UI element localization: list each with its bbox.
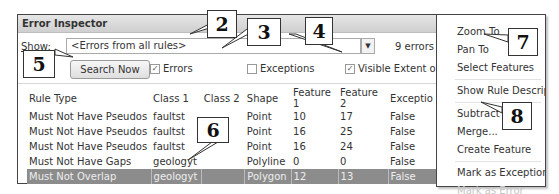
column-header-class2[interactable]: Class 2 [202,87,245,109]
cell-class1: faultst [151,124,202,139]
column-header-exception[interactable]: Exceptio [388,87,437,109]
cell-class2 [202,154,245,169]
column-header-feature1[interactable]: Feature 1 [291,87,338,109]
cell-feature1: 10 [291,109,338,124]
cell-feature2: 0 [338,154,388,169]
callout-7: 7 [508,28,538,56]
cell-rule-type: Must Not Have Gaps [27,154,151,169]
cell-feature1: 12 [291,169,338,184]
empty-checkbox-icon[interactable] [247,64,257,74]
column-header-feature2[interactable]: Feature 2 [338,87,388,109]
exceptions-checkbox[interactable]: Exceptions [247,63,314,74]
callout-6: 6 [197,117,229,143]
table-row-selected[interactable]: Must Not Overlap geologyt Polygon 12 13 … [27,169,437,184]
table-row[interactable]: Must Not Have Pseudos faultst Point 16 2… [27,124,437,139]
cell-rule-type: Must Not Overlap [27,169,151,184]
visible-extent-checkbox-label: Visible Extent o [358,63,436,74]
error-count: 9 errors [395,41,434,52]
cell-feature2: 25 [338,124,388,139]
menu-separator [455,161,541,162]
menu-item-show-rule-description[interactable]: Show Rule Description... [437,82,545,100]
cell-class1: geologyt [151,169,202,184]
cell-shape: Polyline [245,154,291,169]
cell-rule-type: Must Not Have Pseudos [27,109,151,124]
errors-checkbox[interactable]: ✓ Errors [150,63,193,74]
cell-feature2: 17 [338,109,388,124]
column-header-rule-type[interactable]: Rule Type [27,87,151,109]
callout-4: 4 [305,17,333,45]
cell-class2 [202,169,245,184]
errors-checkbox-label: Errors [163,63,193,74]
visible-extent-checkbox[interactable]: ✓ Visible Extent o [345,63,436,74]
cell-class1: geologyt [151,154,202,169]
menu-separator [455,79,541,80]
cell-feature2: 24 [338,139,388,154]
cell-feature2: 13 [338,169,388,184]
error-table: Rule Type Class 1 Class 2 Shape Feature … [27,87,438,184]
cell-feature1: 16 [291,139,338,154]
cell-rule-type: Must Not Have Pseudos [27,139,151,154]
search-now-button[interactable]: Search Now [70,60,150,79]
column-header-shape[interactable]: Shape [245,87,291,109]
divider [18,83,477,84]
table-row[interactable]: Must Not Have Pseudos faultst Point 10 1… [27,109,437,124]
callout-5: 5 [23,50,55,78]
table-header: Rule Type Class 1 Class 2 Shape Feature … [27,87,437,109]
cell-exception: False [388,109,437,124]
exceptions-checkbox-label: Exceptions [260,63,314,74]
checkmark-icon[interactable]: ✓ [150,64,160,74]
cell-exception: False [388,169,437,184]
menu-item-mark-as-error: Mark as Error [437,182,545,194]
checkmark-icon[interactable]: ✓ [345,64,355,74]
menu-item-create-feature[interactable]: Create Feature [437,141,545,159]
cell-shape: Point [245,139,291,154]
callout-3: 3 [247,18,281,46]
callout-8: 8 [502,102,532,130]
cell-shape: Point [245,124,291,139]
cell-class1: faultst [151,139,202,154]
cell-exception: False [388,139,437,154]
cell-shape: Point [245,109,291,124]
cell-exception: False [388,154,437,169]
menu-item-mark-as-exception[interactable]: Mark as Exception [437,164,545,182]
menu-item-select-features[interactable]: Select Features [437,59,545,77]
column-header-class1[interactable]: Class 1 [151,87,202,109]
cell-feature1: 0 [291,154,338,169]
cell-feature1: 16 [291,124,338,139]
cell-rule-type: Must Not Have Pseudos [27,124,151,139]
cell-shape: Polygon [245,169,291,184]
callout-2: 2 [207,10,237,38]
cell-class1: faultst [151,109,202,124]
cell-exception: False [388,124,437,139]
table-row[interactable]: Must Not Have Pseudos faultst Point 16 2… [27,139,437,154]
chevron-down-icon[interactable]: ▼ [361,38,375,54]
table-row[interactable]: Must Not Have Gaps geologyt Polyline 0 0… [27,154,437,169]
